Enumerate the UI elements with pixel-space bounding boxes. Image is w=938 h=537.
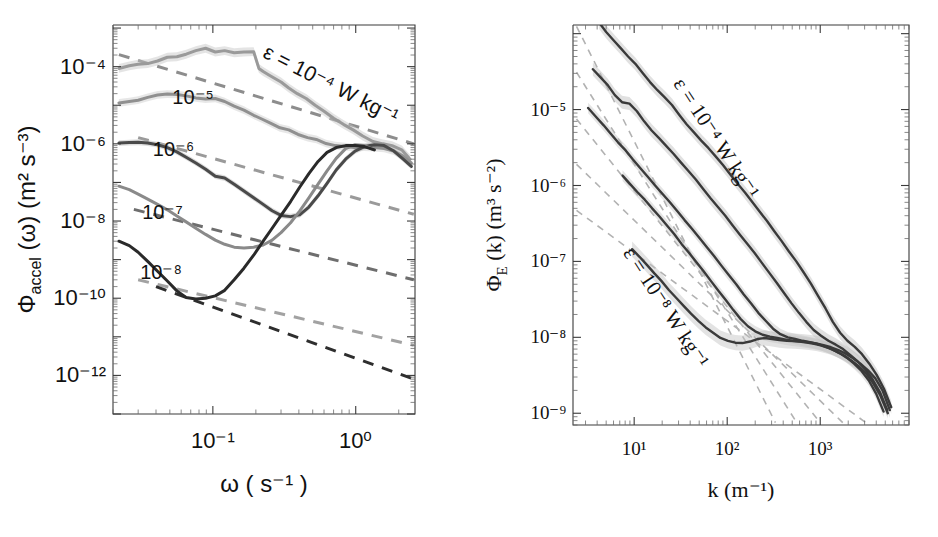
y-axis-title: ΦE (k) (m³ s⁻²)	[481, 159, 510, 292]
y-tick-label: 10⁻⁴	[60, 54, 106, 79]
y-tick-labels: 10⁻⁵10⁻⁶10⁻⁷10⁻⁸10⁻⁹	[530, 99, 566, 424]
y-axis-title-symbol: Φ	[481, 275, 506, 291]
panel-energy-spectrum: 10⁻⁵10⁻⁶10⁻⁷10⁻⁸10⁻⁹10¹10²10³k (m⁻¹)ΦE (…	[469, 0, 938, 537]
x-axis-title: k (m⁻¹)	[708, 477, 775, 502]
y-tick-labels: 10⁻⁴10⁻⁶10⁻⁸10⁻¹⁰10⁻¹²	[53, 54, 106, 388]
x-tick-labels: 10⁻¹10⁰	[191, 428, 372, 453]
y-tick-label: 10⁻⁶	[530, 175, 566, 196]
y-axis-title-argument: (ω)	[13, 216, 40, 257]
y-axis-title: Φaccel (ω) (m² s⁻³)	[13, 125, 44, 313]
annotation-eps-1e-5: 10⁻⁵	[172, 86, 214, 108]
y-tick-label: 10⁻⁹	[530, 402, 566, 423]
y-tick-label: 10⁻¹²	[55, 362, 106, 387]
panel-acceleration-spectrum: 10⁻⁴10⁻⁶10⁻⁸10⁻¹⁰10⁻¹²10⁻¹10⁰ω ( s⁻¹ )Φa…	[0, 0, 469, 537]
y-tick-label: 10⁻¹⁰	[53, 285, 106, 310]
y-axis-title-subscript: accel	[27, 257, 44, 294]
y-tick-label: 10⁻⁶	[60, 131, 106, 156]
annotation-eps-1e-8: 10⁻⁸	[140, 261, 182, 283]
y-tick-label: 10⁻⁵	[530, 99, 566, 120]
y-axis-title-argument: (k)	[481, 235, 506, 266]
y-axis-title-symbol: Φ	[13, 294, 40, 313]
y-tick-label: 10⁻⁸	[60, 208, 106, 233]
y-tick-label: 10⁻⁷	[530, 250, 566, 271]
x-tick-labels: 10¹10²10³	[622, 438, 833, 459]
energy-spectrum-plot: 10⁻⁵10⁻⁶10⁻⁷10⁻⁸10⁻⁹10¹10²10³k (m⁻¹)ΦE (…	[469, 0, 938, 537]
x-tick-label: 10¹	[622, 438, 647, 459]
annotation-eps-1e-6: 10⁻⁶	[153, 138, 194, 160]
y-axis-title-subscript: E	[494, 266, 510, 275]
y-tick-label: 10⁻⁸	[530, 326, 566, 347]
x-tick-label: 10⁰	[339, 428, 372, 453]
x-tick-label: 10²	[715, 438, 740, 459]
annotation-eps-1e-7: 10⁻⁷	[142, 201, 182, 223]
y-axis-title-units: (m³ s⁻²)	[481, 159, 506, 236]
acceleration-spectrum-plot: 10⁻⁴10⁻⁶10⁻⁸10⁻¹⁰10⁻¹²10⁻¹10⁰ω ( s⁻¹ )Φa…	[0, 0, 469, 537]
x-tick-label: 10⁻¹	[191, 428, 235, 453]
figure-root: 10⁻⁴10⁻⁶10⁻⁸10⁻¹⁰10⁻¹²10⁻¹10⁰ω ( s⁻¹ )Φa…	[0, 0, 938, 537]
x-axis-title: ω ( s⁻¹ )	[220, 470, 308, 497]
x-tick-label: 10³	[808, 438, 833, 459]
y-axis-title-units: (m² s⁻³)	[13, 125, 40, 215]
